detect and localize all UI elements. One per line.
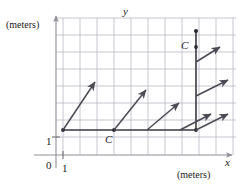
origin-label: 0 (46, 160, 52, 171)
y-axis-tick-label: 1 (46, 136, 52, 147)
grid-lines-horizontal (56, 18, 236, 137)
x-axis-symbol-label: x (225, 157, 230, 168)
y-axis-unit-label: (meters) (6, 20, 39, 30)
grid-lines-vertical (63, 18, 233, 155)
x-axis-tick-label: 1 (62, 163, 68, 174)
vector-1 (63, 82, 95, 130)
curve-c-path (63, 31, 196, 130)
vector-field-figure: y x (meters) (meters) 1 0 1 C C (0, 0, 245, 194)
curve-c-points (61, 29, 198, 132)
vector-5 (196, 114, 228, 130)
y-axis-symbol-label: y (123, 6, 128, 17)
vector-6 (196, 80, 228, 96)
field-vectors (63, 47, 228, 130)
curve-point (194, 45, 198, 49)
vector-2 (114, 90, 146, 130)
curve-label-upper: C (181, 40, 188, 51)
x-axis-unit-label: (meters) (177, 170, 210, 180)
curve-label-lower: C (105, 134, 112, 145)
vector-3 (147, 103, 179, 130)
curve-point (194, 29, 198, 33)
